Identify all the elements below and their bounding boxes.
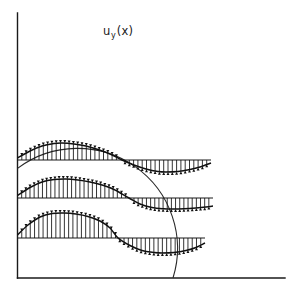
velocity-profile-figure: uy(x) xyxy=(0,0,299,296)
velocity-profile-2 xyxy=(18,176,214,212)
figure-title: uy(x) xyxy=(103,26,133,40)
velocity-profile-1 xyxy=(18,140,212,175)
profile-envelope-1 xyxy=(18,143,212,172)
cylinder-outline xyxy=(18,148,178,278)
title-argument: (x) xyxy=(117,24,134,38)
velocity-profiles-group xyxy=(18,140,214,256)
title-base: u xyxy=(103,24,111,38)
plot-canvas xyxy=(0,0,299,296)
cylinder-arc xyxy=(18,148,178,278)
